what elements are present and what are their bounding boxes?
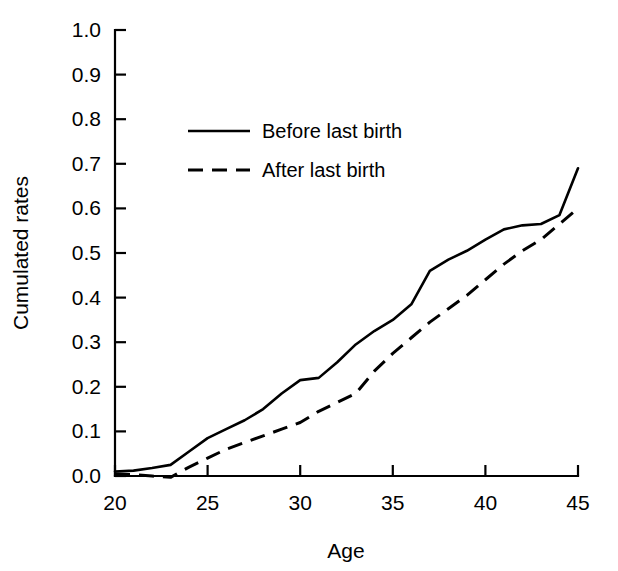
x-tick-label: 40: [474, 491, 497, 514]
x-tick-label: 45: [566, 491, 589, 514]
y-tick-label: 0.5: [72, 241, 101, 264]
cumulated-rates-line-chart: 0.00.10.20.30.40.50.60.70.80.91.0 202530…: [0, 0, 618, 571]
y-tick-label: 0.3: [72, 330, 101, 353]
chart-legend: Before last birth After last birth: [188, 120, 402, 181]
legend-label-after-last-birth: After last birth: [262, 159, 385, 181]
y-tick-label: 1.0: [72, 18, 101, 41]
x-tick-label: 20: [103, 491, 126, 514]
y-tick-label: 0.6: [72, 196, 101, 219]
chart-figure: 0.00.10.20.30.40.50.60.70.80.91.0 202530…: [0, 0, 618, 571]
y-tick-label: 0.8: [72, 107, 101, 130]
series-line-after-last-birth: [115, 208, 578, 477]
x-tick-label: 30: [289, 491, 312, 514]
x-tick-label: 25: [196, 491, 219, 514]
y-tick-label: 0.2: [72, 375, 101, 398]
axis-tick-marks: [115, 30, 578, 476]
y-tick-label: 0.7: [72, 152, 101, 175]
y-axis-title: Cumulated rates: [9, 176, 32, 330]
y-axis-tick-labels: 0.00.10.20.30.40.50.60.70.80.91.0: [72, 18, 102, 487]
y-tick-label: 0.4: [72, 286, 102, 309]
y-tick-label: 0.9: [72, 63, 101, 86]
legend-label-before-last-birth: Before last birth: [262, 120, 402, 142]
y-tick-label: 0.1: [72, 419, 101, 442]
x-tick-label: 35: [381, 491, 404, 514]
series-line-before-last-birth: [115, 168, 578, 471]
y-tick-label: 0.0: [72, 464, 101, 487]
x-axis-tick-labels: 202530354045: [103, 491, 589, 514]
x-axis-title: Age: [327, 539, 364, 562]
